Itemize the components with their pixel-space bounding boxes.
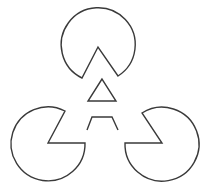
illusory-contour-figure xyxy=(0,0,209,187)
background xyxy=(0,0,209,187)
